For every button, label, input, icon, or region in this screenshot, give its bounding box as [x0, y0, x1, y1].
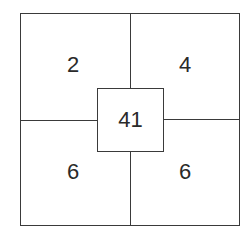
divider-bottom: [130, 152, 131, 226]
quadrant-top-left-value: 2: [67, 52, 79, 78]
quadrant-bottom-left-value: 6: [67, 159, 79, 185]
divider-top: [130, 13, 131, 88]
quadrant-top-right-value: 4: [179, 52, 191, 78]
center-value: 41: [118, 107, 142, 133]
center-square: 41: [97, 88, 164, 152]
divider-right: [164, 119, 240, 120]
divider-left: [20, 120, 97, 121]
quadrant-bottom-right-value: 6: [179, 159, 191, 185]
